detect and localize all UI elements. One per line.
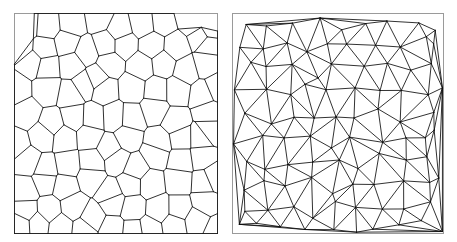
delaunay-panel-frame [233,14,444,234]
delaunay-svg [0,0,457,242]
figure-root [0,0,457,242]
delaunay-panel [0,0,457,242]
